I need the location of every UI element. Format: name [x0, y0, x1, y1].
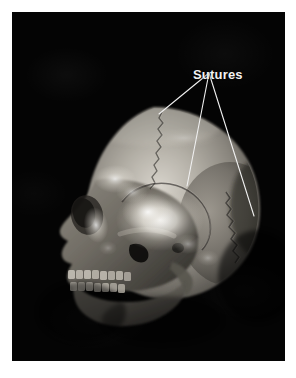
leader-line-lambdoid — [209, 73, 254, 216]
label-sutures: Sutures — [193, 67, 243, 82]
annotation-overlay — [12, 12, 285, 361]
leader-line-squamous — [187, 73, 209, 186]
leader-lines — [159, 73, 254, 216]
skull-photograph: Sutures — [12, 12, 285, 361]
figure-container: Sutures — [0, 0, 296, 378]
